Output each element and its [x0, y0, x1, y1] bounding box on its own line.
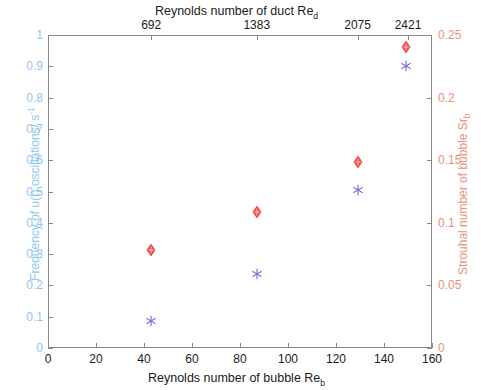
left-tick-mark: [48, 129, 53, 130]
left-tick-mark: [48, 223, 53, 224]
right-tick-mark: [427, 98, 432, 99]
bottom-tick-mark: [144, 343, 145, 348]
top-tick-mark: [151, 35, 152, 40]
bottom-axis-title-text: Reynolds number of bubble Re: [148, 371, 320, 385]
right-tick-label: 0.1: [438, 216, 455, 230]
left-tick-mark: [48, 160, 53, 161]
right-tick-label: 0.15: [438, 153, 461, 167]
bottom-tick-mark: [192, 343, 193, 348]
left-tick-mark: [48, 317, 53, 318]
bottom-tick-label: 120: [326, 352, 346, 366]
bottom-axis-title-subscript: b: [320, 378, 325, 388]
left-tick-mark: [48, 348, 53, 349]
left-tick-mark: [48, 192, 53, 193]
left-tick-mark: [48, 66, 53, 67]
left-tick-label: 0.6: [26, 153, 43, 167]
left-tick-label: 1: [36, 28, 43, 42]
left-tick-label: 0.8: [26, 91, 43, 105]
bottom-tick-label: 140: [374, 352, 394, 366]
bottom-tick-label: 20: [89, 352, 102, 366]
right-tick-mark: [427, 35, 432, 36]
right-tick-mark: [427, 160, 432, 161]
bottom-axis-title: Reynolds number of bubble Reb: [0, 371, 481, 388]
right-tick-mark: [427, 348, 432, 349]
top-tick-mark: [358, 35, 359, 40]
bottom-tick-mark: [240, 343, 241, 348]
right-axis-title-text: Strouhal number of bubble Sr: [456, 118, 470, 275]
left-tick-label: 0.3: [26, 247, 43, 261]
right-tick-label: 0: [438, 341, 445, 355]
bottom-tick-mark: [336, 343, 337, 348]
left-tick-label: 0: [36, 341, 43, 355]
left-tick-label: 0.1: [26, 310, 43, 324]
left-tick-label: 0.9: [26, 59, 43, 73]
bottom-tick-mark: [384, 343, 385, 348]
bottom-tick-label: 100: [278, 352, 298, 366]
left-tick-mark: [48, 35, 53, 36]
plot-area: [48, 35, 432, 348]
top-tick-mark: [257, 35, 258, 40]
bottom-tick-mark: [96, 343, 97, 348]
top-tick-label: 1383: [243, 18, 270, 32]
left-tick-mark: [48, 98, 53, 99]
bottom-tick-label: 80: [233, 352, 246, 366]
left-tick-label: 0.7: [26, 122, 43, 136]
top-tick-label: 692: [141, 18, 161, 32]
left-tick-label: 0.2: [26, 278, 43, 292]
right-axis-title-subscript: b: [462, 113, 472, 118]
bottom-tick-mark: [288, 343, 289, 348]
left-axis-title-superscript: -1: [26, 107, 36, 115]
right-tick-mark: [427, 223, 432, 224]
top-axis-title-subscript: d: [313, 11, 318, 21]
left-tick-label: 0.4: [26, 216, 43, 230]
top-tick-label: 2421: [395, 18, 422, 32]
bottom-tick-label: 60: [185, 352, 198, 366]
right-tick-mark: [427, 285, 432, 286]
top-tick-label: 2075: [344, 18, 371, 32]
right-tick-label: 0.2: [438, 91, 455, 105]
top-tick-mark: [408, 35, 409, 40]
bottom-tick-label: 40: [137, 352, 150, 366]
bottom-tick-label: 0: [45, 352, 52, 366]
chart-figure: Reynolds number of duct Red Reynolds num…: [0, 0, 481, 390]
top-axis-title-text: Reynolds number of duct Re: [155, 4, 313, 18]
left-tick-mark: [48, 254, 53, 255]
left-tick-label: 0.5: [26, 185, 43, 199]
bottom-tick-mark: [432, 343, 433, 348]
right-tick-label: 0.05: [438, 278, 461, 292]
left-tick-mark: [48, 285, 53, 286]
right-tick-label: 0.25: [438, 28, 461, 42]
